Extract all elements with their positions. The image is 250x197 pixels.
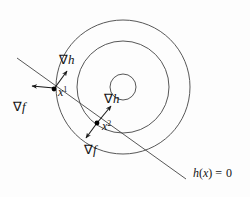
point-marker-x2 <box>95 121 100 126</box>
gradient-h-label-x2: ∇h <box>103 91 120 106</box>
constraint-label-zero: 0 <box>226 166 232 180</box>
contour-circle-middle <box>77 41 169 133</box>
nabla-icon: ∇ <box>83 142 93 157</box>
constraint-label: h(x)=0 <box>193 166 232 180</box>
nabla-icon: ∇ <box>58 52 68 67</box>
gradient-f-label-x2: ∇f <box>83 142 99 157</box>
gradient-f-arrow-x2 <box>86 123 97 138</box>
point-label-x1-superscript: 1 <box>63 85 67 94</box>
gradient-h-label-x2-fn: h <box>113 91 120 106</box>
point-label-x2-superscript: 2 <box>107 119 111 128</box>
constraint-label-equals: = <box>215 166 222 180</box>
point-label-x1: x1 <box>57 85 67 99</box>
nabla-icon: ∇ <box>12 99 22 114</box>
gradient-f-label-x1-fn: f <box>22 99 28 114</box>
point-marker-x1 <box>52 87 57 92</box>
constraint-label-paren-close: ) <box>208 166 212 180</box>
lagrange-geometry-diagram: ∇h ∇f x1 ∇h ∇f x2 h(x)=0 <box>0 0 250 197</box>
gradient-h-label-x1: ∇h <box>58 52 75 67</box>
gradient-h-label-x1-fn: h <box>68 52 75 67</box>
gradient-f-label-x1: ∇f <box>12 99 28 114</box>
nabla-icon: ∇ <box>103 91 113 106</box>
gradient-f-arrow-x1 <box>32 86 54 88</box>
figure-canvas: ∇h ∇f x1 ∇h ∇f x2 h(x)=0 <box>0 0 250 197</box>
